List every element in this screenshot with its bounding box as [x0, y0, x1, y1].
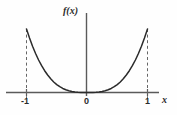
- y-axis-label: f(x): [63, 6, 78, 16]
- x-axis-label: x: [162, 95, 167, 105]
- function-plot-figure: -1 0 1 x f(x): [0, 0, 177, 115]
- tick-label-neg-one: -1: [21, 97, 29, 106]
- tick-label-zero: 0: [84, 97, 89, 106]
- tick-label-one: 1: [145, 97, 150, 106]
